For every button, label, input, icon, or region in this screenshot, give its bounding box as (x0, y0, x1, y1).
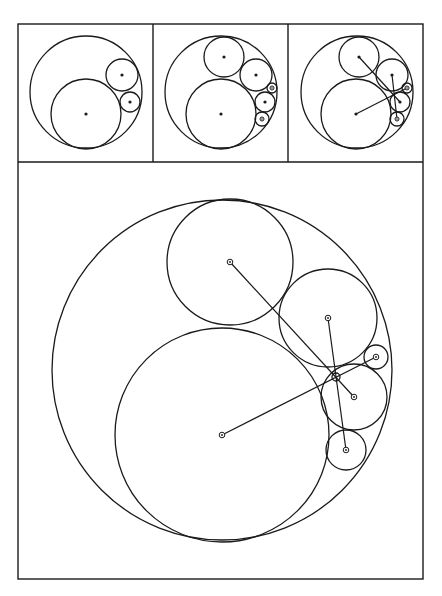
connector-line-1 (230, 262, 354, 397)
center-dot-icon (128, 100, 131, 103)
center-dot-icon (396, 118, 398, 120)
panels (30, 36, 413, 542)
center-dot-icon (357, 55, 360, 58)
center-dot-icon (327, 317, 329, 319)
center-dot-icon (219, 112, 222, 115)
outer-frame (18, 24, 423, 579)
circle-outer (165, 36, 277, 148)
center-dot-icon (354, 112, 357, 115)
circle-outer (52, 200, 392, 540)
center-dot-icon (222, 55, 225, 58)
center-dot-icon (353, 396, 355, 398)
connector-line-2 (328, 318, 346, 450)
center-dot-icon (120, 73, 123, 76)
center-dot-icon (221, 434, 223, 436)
center-dot-icon (390, 73, 393, 76)
panel-step-1 (30, 36, 142, 149)
diagram-canvas (0, 0, 442, 596)
center-dot-icon (229, 261, 231, 263)
center-dot-icon (375, 356, 377, 358)
circle-outer (301, 36, 413, 148)
center-dot-icon (398, 100, 401, 103)
panel-step-2 (165, 36, 277, 149)
center-dot-icon (84, 112, 87, 115)
center-dot-icon (271, 87, 273, 89)
center-dot-icon (254, 73, 257, 76)
panel-step-3 (301, 36, 413, 149)
center-dot-icon (263, 100, 266, 103)
panel-frames (18, 24, 423, 579)
circle-packing-figure (0, 0, 442, 596)
panel-enlarged (52, 199, 392, 542)
circle-outer (30, 36, 142, 148)
center-dot-icon (406, 87, 408, 89)
center-dot-icon (345, 449, 347, 451)
center-dot-icon (261, 118, 263, 120)
